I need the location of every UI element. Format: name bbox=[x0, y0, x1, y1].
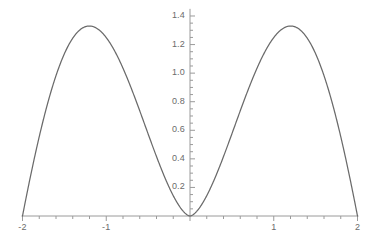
y-tick-label: 0.6 bbox=[160, 124, 185, 134]
x-tick-label: 2 bbox=[346, 222, 370, 232]
chart-plot-area bbox=[0, 0, 380, 244]
chart-container: 0.20.40.60.81.01.21.4 -2-112 bbox=[0, 0, 380, 244]
y-tick-label: 1.2 bbox=[160, 39, 185, 49]
x-tick-label: 1 bbox=[262, 222, 286, 232]
y-tick-label: 1.4 bbox=[160, 10, 185, 20]
x-tick-label: -2 bbox=[11, 222, 35, 232]
y-tick-label: 0.2 bbox=[160, 181, 185, 191]
y-tick-label: 1.0 bbox=[160, 67, 185, 77]
y-tick-label: 0.4 bbox=[160, 153, 185, 163]
y-tick-label: 0.8 bbox=[160, 96, 185, 106]
x-tick-label: -1 bbox=[94, 222, 118, 232]
